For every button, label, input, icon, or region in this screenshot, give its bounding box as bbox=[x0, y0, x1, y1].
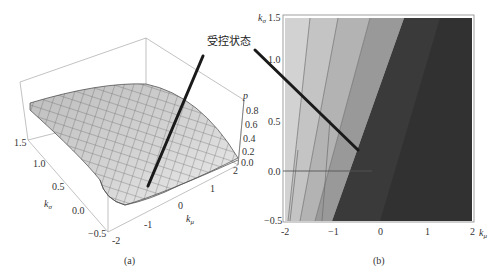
kmu-tick: 0 bbox=[378, 226, 383, 237]
ksigma-tick: 0.0 bbox=[72, 205, 85, 216]
p-tick: 0.8 bbox=[246, 105, 259, 116]
kmu-tick: 1 bbox=[425, 226, 430, 237]
ksigma-tick: −0.5 bbox=[88, 228, 106, 239]
kmu-tick: 2 bbox=[233, 165, 238, 176]
kmu-tick: 1 bbox=[210, 183, 215, 194]
ksigma-tick: 1.0 bbox=[33, 158, 46, 169]
ksigma-tick: −0.5 bbox=[264, 215, 282, 226]
kmu-tick: -2 bbox=[281, 226, 289, 237]
panel-a-caption: (a) bbox=[124, 255, 135, 267]
ksigma-axis-label: kσ bbox=[44, 198, 52, 211]
figure: p 0.8 0.6 0.4 0.2 0.0 -2 -1 0 1 2 kμ −0.… bbox=[0, 0, 498, 275]
kmu-tick: -2 bbox=[112, 235, 120, 246]
panel-a-surface-plot: p 0.8 0.6 0.4 0.2 0.0 -2 -1 0 1 2 kμ −0.… bbox=[14, 38, 259, 267]
p-tick: 0.0 bbox=[241, 157, 254, 168]
kmu-axis-label: kμ bbox=[479, 227, 487, 240]
kmu-tick: −1 bbox=[328, 226, 339, 237]
ksigma-tick: 1.5 bbox=[14, 137, 27, 148]
kmu-tick: 0 bbox=[178, 200, 183, 211]
p-tick: 0.6 bbox=[245, 119, 258, 130]
p-tick: 0.4 bbox=[243, 133, 256, 144]
ksigma-tick: 1.5 bbox=[268, 12, 281, 23]
ksigma-tick: 0.5 bbox=[268, 116, 281, 127]
p-axis: p 0.8 0.6 0.4 0.2 0.0 bbox=[238, 90, 259, 168]
kmu-tick: 2 bbox=[470, 226, 475, 237]
ksigma-axis: kσ 1.5 1.0 0.5 0.0 −0.5 bbox=[258, 12, 282, 226]
kmu-axis: -2 −1 0 1 2 kμ bbox=[281, 226, 487, 240]
contour-bands bbox=[285, 18, 472, 221]
ksigma-tick: 0.0 bbox=[268, 166, 281, 177]
panel-b-caption: (b) bbox=[373, 255, 385, 267]
kmu-tick: -1 bbox=[144, 219, 152, 230]
ksigma-axis-label: kσ bbox=[258, 12, 266, 25]
ksigma-tick: 0.5 bbox=[52, 181, 65, 192]
annotation-label: 受控状态 bbox=[207, 34, 251, 47]
panel-b-contour-plot: kσ 1.5 1.0 0.5 0.0 −0.5 -2 −1 0 1 2 kμ (… bbox=[258, 12, 487, 267]
p-axis-label: p bbox=[242, 90, 248, 101]
kmu-axis-label: kμ bbox=[186, 213, 194, 226]
p-tick: 0.2 bbox=[242, 146, 255, 157]
